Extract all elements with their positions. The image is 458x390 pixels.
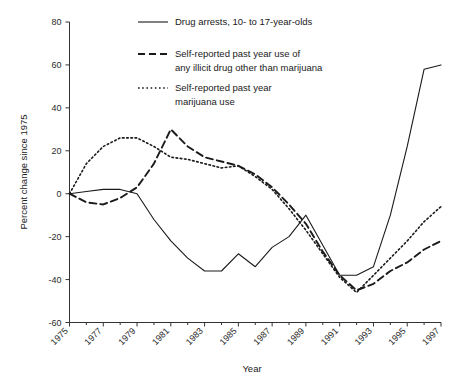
x-tick-label: 1995 — [386, 326, 407, 347]
x-axis-title: Year — [242, 363, 261, 374]
x-tick-label: 1979 — [116, 326, 137, 347]
y-tick-label: 60 — [51, 60, 61, 70]
y-axis-ticks: -60-40-20020406080 — [48, 17, 69, 328]
legend-label-1: Drug arrests, 10- to 17-year-olds — [175, 16, 313, 27]
y-tick-label: 0 — [56, 189, 61, 199]
series-line-1 — [70, 65, 442, 275]
x-tick-label: 1997 — [420, 326, 441, 347]
x-tick-label: 1987 — [251, 326, 272, 347]
series-layer — [70, 65, 442, 293]
chart-legend: Drug arrests, 10- to 17-year-oldsSelf-re… — [138, 16, 323, 107]
chart-figure: -60-40-20020406080 197519771979198119831… — [0, 0, 458, 390]
x-tick-label: 1991 — [319, 326, 340, 347]
x-tick-label: 1977 — [82, 326, 103, 347]
legend-label-2: Self-reported past year use of — [175, 48, 301, 59]
y-tick-label: 80 — [51, 17, 61, 27]
y-axis-title: Percent change since 1975 — [18, 114, 29, 229]
legend-label-3: Self-reported past year — [175, 82, 272, 93]
x-tick-label: 1985 — [218, 326, 239, 347]
legend-label-2-line2: any illicit drug other than marijuana — [175, 62, 323, 73]
y-tick-label: 20 — [51, 146, 61, 156]
x-tick-label: 1989 — [285, 326, 306, 347]
legend-label-3-line2: marijuana use — [175, 96, 235, 107]
x-axis-ticks: 1975197719791981198319851987198919911993… — [49, 323, 442, 348]
x-tick-label: 1981 — [150, 326, 171, 347]
series-line-3 — [70, 138, 442, 293]
y-tick-label: 40 — [51, 103, 61, 113]
y-tick-label: -60 — [48, 318, 61, 328]
x-tick-label: 1983 — [184, 326, 205, 347]
y-tick-label: -20 — [48, 232, 61, 242]
x-tick-label: 1993 — [353, 326, 374, 347]
y-tick-label: -40 — [48, 275, 61, 285]
x-tick-label: 1975 — [49, 326, 70, 347]
line-chart: -60-40-20020406080 197519771979198119831… — [0, 0, 458, 390]
